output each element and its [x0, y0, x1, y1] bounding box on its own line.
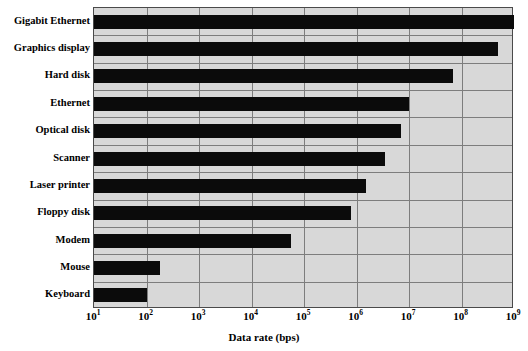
category-axis-labels: Gigabit EthernetGraphics displayHard dis…: [0, 7, 90, 308]
bar: [94, 15, 514, 29]
bar: [94, 42, 498, 56]
x-tick-label: 101: [86, 310, 101, 322]
x-tick-label: 102: [138, 310, 153, 322]
bar: [94, 179, 366, 193]
category-label: Hard disk: [2, 70, 90, 81]
category-label: Keyboard: [2, 289, 90, 300]
x-tick-label: 105: [296, 310, 311, 322]
gridline-horizontal: [94, 117, 512, 118]
x-tick-label: 109: [506, 310, 521, 322]
bar: [94, 97, 409, 111]
category-label: Scanner: [2, 153, 90, 164]
bar: [94, 288, 147, 302]
x-tick-label: 104: [243, 310, 258, 322]
bar: [94, 234, 291, 248]
gridline-horizontal: [94, 63, 512, 64]
x-axis-tick-labels: 101102103104105106107108109: [93, 310, 513, 328]
category-label: Ethernet: [2, 98, 90, 109]
category-label: Modem: [2, 235, 90, 246]
gridline-horizontal: [94, 254, 512, 255]
category-label: Optical disk: [2, 125, 90, 136]
gridline-horizontal: [94, 172, 512, 173]
category-label: Laser printer: [2, 180, 90, 191]
category-label: Mouse: [2, 262, 90, 273]
gridline-horizontal: [94, 35, 512, 36]
x-tick-label: 108: [453, 310, 468, 322]
x-axis-title: Data rate (bps): [0, 331, 528, 343]
gridline-horizontal: [94, 145, 512, 146]
bar: [94, 152, 385, 166]
gridline-horizontal: [94, 227, 512, 228]
x-tick-label: 106: [348, 310, 363, 322]
gridline-horizontal: [94, 200, 512, 201]
bar: [94, 206, 351, 220]
bar: [94, 69, 453, 83]
category-label: Gigabit Ethernet: [2, 16, 90, 27]
x-tick-label: 107: [401, 310, 416, 322]
gridline-horizontal: [94, 282, 512, 283]
x-tick-label: 103: [191, 310, 206, 322]
bar: [94, 124, 401, 138]
bar: [94, 261, 160, 275]
data-rate-bar-chart: Gigabit EthernetGraphics displayHard dis…: [0, 0, 528, 351]
category-label: Floppy disk: [2, 207, 90, 218]
gridline-horizontal: [94, 90, 512, 91]
category-label: Graphics display: [2, 43, 90, 54]
plot-area: [93, 7, 513, 308]
